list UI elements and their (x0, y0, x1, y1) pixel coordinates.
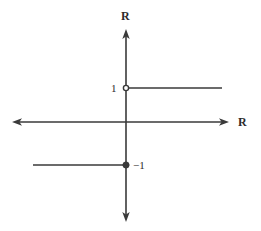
closed-point-at-neg1-marker (123, 162, 129, 168)
vertical-axis-label: R (121, 10, 130, 22)
graph-canvas (0, 0, 261, 231)
horizontal-axis-label: R (238, 116, 247, 128)
math-figure: R R 1 −1 (0, 0, 261, 231)
tick-label-positive-one: 1 (111, 83, 117, 94)
open-point-at-1-marker (123, 85, 128, 90)
tick-label-negative-one: −1 (133, 160, 145, 171)
